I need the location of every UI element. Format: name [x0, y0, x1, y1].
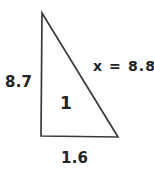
- hypotenuse-length-label: x = 8.8: [93, 59, 154, 73]
- triangle-figure: 8.7 x = 8.8 1 1.6: [0, 0, 154, 174]
- interior-angle-label: 1: [60, 95, 72, 112]
- base-length-label: 1.6: [61, 151, 88, 166]
- triangle-outline: [41, 13, 118, 137]
- left-leg-length-label: 8.7: [5, 75, 32, 90]
